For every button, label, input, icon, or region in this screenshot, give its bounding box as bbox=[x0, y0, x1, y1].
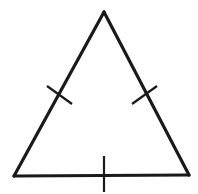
geometry-figure-canvas bbox=[0, 0, 198, 194]
triangle-base-side bbox=[14, 175, 189, 176]
triangle-diagram-svg bbox=[0, 0, 198, 194]
